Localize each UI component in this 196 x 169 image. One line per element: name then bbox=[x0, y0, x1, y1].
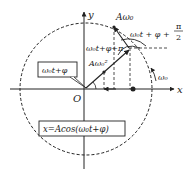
velocity-phase-two: 2 bbox=[176, 33, 181, 42]
angular-velocity-label: ω₀ bbox=[158, 73, 169, 82]
velocity-phase-label: ω₀t + φ + bbox=[130, 30, 170, 39]
amplitude-vector bbox=[86, 50, 129, 88]
acceleration-label: Aω₀² bbox=[88, 59, 108, 68]
phase-box-label: ω₀t+φ bbox=[42, 66, 68, 75]
velocity-phase-pi: π bbox=[176, 22, 181, 31]
y-axis-label: y bbox=[87, 9, 94, 20]
projection-point bbox=[131, 87, 136, 92]
origin-label: O bbox=[73, 93, 81, 104]
accel-phase-label: ω₀t+φ+π bbox=[86, 44, 124, 53]
angular-velocity-arrow bbox=[151, 68, 156, 81]
phase-angle-arc bbox=[93, 82, 96, 89]
position-formula: x=Acos(ω₀t+φ) bbox=[43, 124, 109, 134]
shm-phasor-diagram: x y O Aω₀ ω₀t + φ + π 2 ω₀t+φ+π Aω₀² ω₀ … bbox=[0, 0, 196, 169]
velocity-label: Aω₀ bbox=[115, 12, 134, 22]
x-axis-label: x bbox=[177, 84, 183, 95]
